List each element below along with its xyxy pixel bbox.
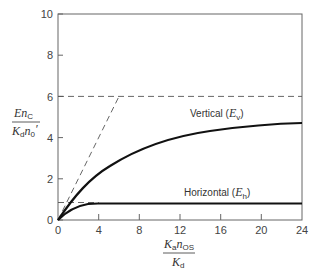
svg-text:KanOS: KanOS: [163, 237, 194, 252]
svg-text:0: 0: [55, 224, 61, 236]
svg-text:6: 6: [47, 91, 53, 103]
y-axis: [58, 14, 63, 220]
vertical-curve: [58, 123, 302, 220]
svg-text:4: 4: [96, 224, 102, 236]
svg-text:EnC: EnC: [13, 106, 33, 121]
svg-text:24: 24: [296, 224, 308, 236]
y-axis-label: EnC Kdn0′: [11, 106, 40, 139]
x-axis-label: KanOS Kd: [163, 237, 195, 270]
svg-text:Kd: Kd: [171, 255, 184, 270]
plot-frame: [58, 14, 302, 220]
y-tick-labels: 0 2 4 6 8 10: [41, 8, 53, 226]
initial-slope-line: [58, 96, 119, 220]
horizontal-series-label: Horizontal (Eh): [184, 185, 250, 201]
svg-text:4: 4: [47, 132, 53, 144]
svg-text:16: 16: [215, 224, 227, 236]
svg-text:8: 8: [47, 49, 53, 61]
svg-text:0: 0: [47, 214, 53, 226]
svg-text:8: 8: [136, 224, 142, 236]
chart: 0 2 4 6 8 10 0 4 8 12 16 20 24 Vertical …: [0, 0, 318, 275]
x-tick-labels: 0 4 8 12 16 20 24: [55, 224, 308, 236]
vertical-series-label: Vertical (Ev): [190, 106, 244, 122]
svg-text:12: 12: [174, 224, 186, 236]
svg-text:10: 10: [41, 8, 53, 20]
x-axis: [99, 214, 262, 220]
svg-text:20: 20: [255, 224, 267, 236]
dashed-guides: [58, 96, 302, 220]
svg-text:Kdn0′: Kdn0′: [11, 122, 38, 139]
svg-text:2: 2: [47, 173, 53, 185]
